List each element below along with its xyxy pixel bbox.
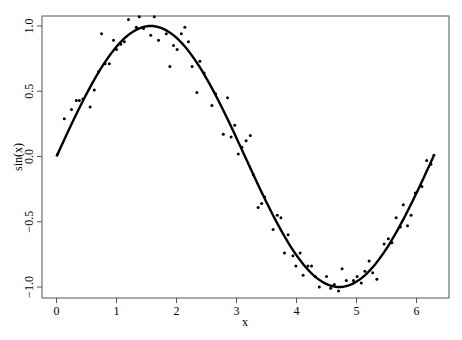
data-point — [395, 216, 398, 219]
x-tick-label: 6 — [414, 304, 420, 318]
data-point — [176, 48, 179, 51]
x-axis-label: x — [242, 315, 248, 329]
data-point — [375, 278, 378, 281]
data-point — [294, 265, 297, 268]
data-point — [237, 152, 240, 155]
data-point — [149, 34, 152, 37]
data-point — [78, 99, 81, 102]
data-point — [329, 287, 332, 290]
x-axis: 0123456 — [54, 298, 420, 318]
y-tick-label: 0.5 — [22, 84, 36, 99]
data-point — [368, 259, 371, 262]
data-point — [187, 40, 190, 43]
data-point — [100, 32, 103, 35]
data-point — [387, 237, 390, 240]
data-point — [260, 202, 263, 205]
data-point — [406, 224, 409, 227]
data-point — [195, 91, 198, 94]
data-points — [56, 15, 435, 292]
data-point — [172, 44, 175, 47]
data-point — [93, 88, 96, 91]
data-point — [425, 159, 428, 162]
data-point — [230, 135, 233, 138]
data-point — [168, 65, 171, 68]
sine-curve — [57, 26, 434, 287]
data-point — [127, 18, 130, 21]
data-point — [165, 32, 168, 35]
data-point — [257, 206, 260, 209]
data-point — [371, 271, 374, 274]
data-point — [249, 134, 252, 137]
y-tick-label: −0.5 — [22, 211, 36, 233]
data-point — [302, 274, 305, 277]
data-point — [276, 214, 279, 217]
x-tick-label: 2 — [174, 304, 180, 318]
data-point — [360, 282, 363, 285]
data-point — [363, 270, 366, 273]
data-point — [138, 15, 141, 18]
data-point — [198, 60, 201, 63]
y-axis-label: sin(x) — [11, 143, 25, 171]
data-point — [299, 252, 302, 255]
x-tick-label: 5 — [354, 304, 360, 318]
data-point — [183, 26, 186, 29]
data-point — [318, 286, 321, 289]
data-point — [191, 65, 194, 68]
data-point — [337, 289, 340, 292]
data-point — [291, 254, 294, 257]
data-point — [180, 32, 183, 35]
data-point — [383, 242, 386, 245]
data-point — [157, 39, 160, 42]
data-point — [63, 117, 66, 120]
y-tick-label: −1.0 — [22, 276, 36, 298]
data-point — [341, 267, 344, 270]
data-point — [410, 214, 413, 217]
data-point — [210, 104, 213, 107]
data-point — [279, 216, 282, 219]
data-point — [402, 203, 405, 206]
data-point — [272, 228, 275, 231]
data-point — [356, 275, 359, 278]
data-point — [222, 133, 225, 136]
x-tick-label: 0 — [54, 304, 60, 318]
sine-scatter-chart: 0123456 −1.0−0.50.00.51.0 x sin(x) — [0, 0, 462, 340]
data-point — [112, 39, 115, 42]
x-tick-label: 1 — [114, 304, 120, 318]
y-tick-label: 1.0 — [22, 19, 36, 34]
data-point — [325, 275, 328, 278]
data-point — [287, 233, 290, 236]
data-point — [226, 96, 229, 99]
y-axis: −1.0−0.50.00.51.0 — [22, 19, 42, 298]
data-point — [153, 15, 156, 18]
data-point — [233, 124, 236, 127]
data-point — [345, 279, 348, 282]
data-point — [310, 265, 313, 268]
data-point — [108, 62, 111, 65]
x-tick-label: 3 — [234, 304, 240, 318]
data-point — [283, 252, 286, 255]
x-tick-label: 4 — [294, 304, 300, 318]
data-point — [75, 99, 78, 102]
data-point — [245, 139, 248, 142]
data-point — [89, 105, 92, 108]
data-point — [70, 108, 73, 111]
